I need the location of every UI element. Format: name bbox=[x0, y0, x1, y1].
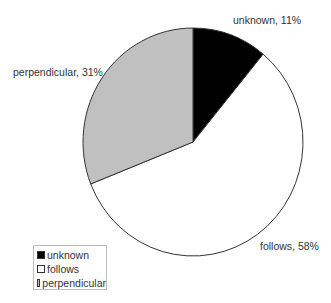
legend-item-follows: follows bbox=[37, 262, 106, 276]
legend-item-unknown: unknown bbox=[37, 248, 106, 262]
label-perpendicular: perpendicular, 31% bbox=[13, 66, 103, 78]
swatch-perpendicular bbox=[37, 279, 40, 287]
legend-label: perpendicular bbox=[42, 277, 106, 289]
label-follows: follows, 58% bbox=[260, 240, 319, 252]
label-unknown: unknown, 11% bbox=[233, 14, 301, 26]
swatch-unknown bbox=[37, 251, 45, 259]
legend-label: follows bbox=[47, 263, 79, 275]
legend-label: unknown bbox=[47, 249, 89, 261]
swatch-follows bbox=[37, 265, 45, 273]
legend-item-perpendicular: perpendicular bbox=[37, 276, 106, 290]
legend: unknown follows perpendicular bbox=[33, 245, 107, 290]
